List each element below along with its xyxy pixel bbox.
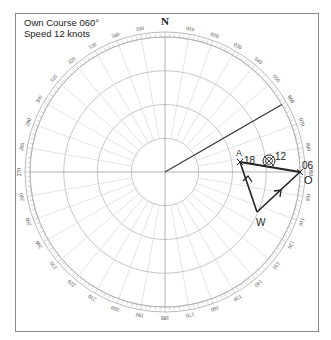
radial-line (197, 184, 292, 219)
radial-line (119, 45, 154, 140)
north-label: N (161, 15, 169, 27)
radial-line (182, 201, 233, 289)
bearing-label: 170 (185, 312, 194, 319)
bearing-label: 120 (286, 240, 295, 250)
bearing-label: 250 (24, 217, 33, 227)
radial-line (177, 204, 212, 299)
target-time: 12 (275, 151, 287, 162)
bearing-label: 310 (48, 73, 58, 83)
bearing-label: 300 (34, 94, 43, 104)
radial-line (142, 205, 160, 305)
radial-line (38, 184, 133, 219)
relative-motion-triangle (240, 162, 300, 212)
bearing-label: 200 (110, 305, 120, 314)
bearing-label: 030 (233, 41, 243, 50)
radial-line (177, 45, 212, 140)
point-w-label: W (256, 217, 266, 228)
bearing-label: 060 (287, 94, 296, 104)
bearing-label: 010 (186, 25, 195, 32)
radar-plotting-sheet: 0100200300400500600700800901001101201301… (0, 0, 331, 340)
bearing-label: 050 (272, 73, 282, 83)
radial-line (38, 126, 133, 161)
bearing-label: 220 (66, 279, 76, 289)
bearing-label: 230 (48, 260, 58, 270)
point-a-time: 18 (244, 155, 256, 166)
bearing-label: 070 (298, 117, 307, 127)
bearing-label: 020 (210, 31, 220, 40)
bearing-label: 330 (87, 41, 97, 50)
radial-line (119, 204, 154, 299)
bearing-label: 260 (18, 192, 25, 201)
radial-line (171, 39, 189, 139)
bearing-label: 130 (272, 261, 282, 271)
bearing-label: 270 (16, 168, 22, 177)
bearing-label: 040 (254, 55, 264, 65)
target-marker-icon (263, 155, 275, 167)
radial-line (171, 205, 189, 305)
bearing-label: 190 (135, 312, 144, 319)
bearing-label: 280 (18, 142, 25, 151)
bearing-label: 240 (34, 240, 43, 250)
vector-w-a (240, 162, 257, 212)
radial-line (142, 39, 160, 139)
bearing-label: 160 (210, 305, 220, 314)
radial-line (182, 55, 233, 143)
vector-w-o (257, 172, 300, 212)
radial-line (48, 105, 136, 156)
bearing-label: 210 (87, 293, 97, 302)
radial-line (48, 189, 136, 240)
bearing-label: 320 (66, 55, 76, 65)
bearing-label: 080 (305, 142, 312, 151)
point-o-time: 06 (302, 160, 314, 171)
point-a-label: A (236, 148, 242, 158)
bearing-label: 100 (305, 193, 312, 202)
bearing-label: 290 (24, 117, 33, 127)
bearing-label: 180 (161, 315, 170, 321)
bearing-label: 350 (135, 25, 144, 32)
radial-line (98, 201, 149, 289)
radial-line (98, 55, 149, 143)
radial-line (32, 149, 132, 167)
bearing-label: 150 (233, 294, 243, 303)
point-o-label: O (304, 174, 313, 186)
bearing-label: 110 (298, 217, 306, 227)
bearing-label: 140 (253, 279, 263, 289)
radial-line (32, 178, 132, 196)
radial-line (194, 189, 282, 240)
bearing-label: 340 (110, 31, 120, 40)
